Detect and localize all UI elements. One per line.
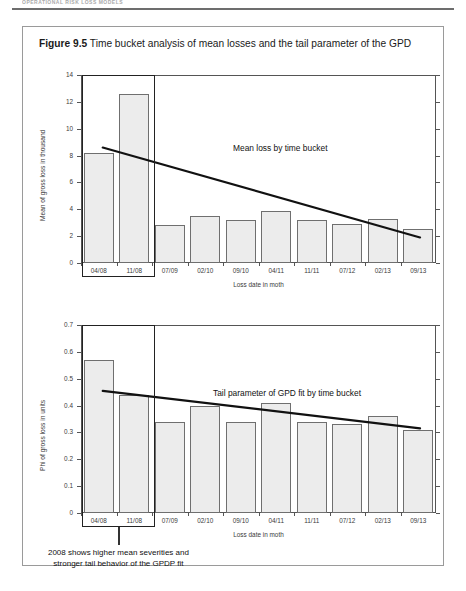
- x-axis-category-label: 07/09: [152, 517, 188, 524]
- mean-loss-chart-right-tick-mark: [436, 263, 440, 264]
- tail-parameter-chart-xtick-mark: [365, 513, 366, 516]
- tail-parameter-chart-ytick-label: 0.3: [43, 428, 73, 435]
- x-axis-category-label: 11/11: [294, 517, 330, 524]
- tail-parameter-chart-ytick-label: 0.2: [43, 455, 73, 462]
- tail-parameter-chart-ytick-label: 0: [43, 509, 73, 516]
- callout-text: 2008 shows higher mean severities and st…: [28, 547, 208, 569]
- x-axis-category-label: 09/10: [223, 517, 259, 524]
- mean-loss-chart-right-tick-mark: [436, 129, 440, 130]
- tail-parameter-chart-right-tick-mark: [436, 486, 440, 487]
- x-axis-category-label: 02/10: [188, 267, 224, 274]
- x-axis-category-label: 04/11: [259, 517, 295, 524]
- mean-loss-chart-ytick-label: 10: [43, 125, 73, 132]
- tail-parameter-chart-right-tick-mark: [436, 325, 440, 326]
- mean-loss-chart-right-tick-mark: [436, 182, 440, 183]
- x-axis-category-label: 07/09: [152, 267, 188, 274]
- x-axis-category-label: 04/11: [259, 267, 295, 274]
- x-axis-category-label: 11/11: [294, 267, 330, 274]
- tail-parameter-chart-right-tick-mark: [436, 352, 440, 353]
- mean-loss-chart-ytick-label: 6: [43, 178, 73, 185]
- x-axis-category-label: 09/10: [223, 267, 259, 274]
- x-axis-category-label: 02/13: [365, 517, 401, 524]
- mean-loss-annotation: Mean loss by time bucket: [233, 143, 328, 153]
- figure-page: OPERATIONAL RISK LOSS MODELS Figure 9.5 …: [0, 0, 466, 591]
- highlight-box-2008-top: [82, 75, 155, 277]
- figure-caption-text: Time bucket analysis of mean losses and …: [90, 38, 411, 49]
- tail-parameter-chart-xtick-mark: [188, 513, 189, 516]
- mean-loss-chart-ytick-label: 14: [43, 71, 73, 78]
- callout-stem: [118, 527, 119, 545]
- mean-loss-chart-ytick-label: 4: [43, 205, 73, 212]
- tail-parameter-chart-ytick-label: 0.5: [43, 375, 73, 382]
- tail-parameter-chart-right-tick-mark: [436, 513, 440, 514]
- tail-parameter-chart-right-tick-mark: [436, 459, 440, 460]
- tail-parameter-chart-ytick-label: 0.6: [43, 348, 73, 355]
- tail-parameter-chart-right-tick-mark: [436, 432, 440, 433]
- mean-loss-chart-xtick-mark: [330, 263, 331, 266]
- mean-loss-chart-ytick-label: 12: [43, 98, 73, 105]
- header-rule: [12, 8, 454, 10]
- x-axis-category-label: 02/10: [188, 517, 224, 524]
- mean-loss-chart-right-tick-mark: [436, 236, 440, 237]
- figure-number: Figure 9.5: [39, 38, 87, 49]
- mean-loss-chart-xtick-mark: [188, 263, 189, 266]
- x-axis-category-label: 09/13: [401, 517, 437, 524]
- callout-line-2: stronger tail behavior of the GPDP fit: [28, 558, 208, 569]
- mean-loss-chart-xtick-mark: [365, 263, 366, 266]
- mean-loss-chart-ytick-label: 0: [43, 259, 73, 266]
- mean-loss-chart-xtick-mark: [401, 263, 402, 266]
- highlight-divider-top: [154, 75, 156, 277]
- mean-loss-chart-ytick-label: 2: [43, 232, 73, 239]
- x-axis-category-label: 02/13: [365, 267, 401, 274]
- mean-loss-chart-right-tick-mark: [436, 156, 440, 157]
- mean-loss-chart-xtick-mark: [223, 263, 224, 266]
- tail-parameter-chart-right-tick-mark: [436, 379, 440, 380]
- figure-container: Figure 9.5 Time bucket analysis of mean …: [22, 26, 444, 566]
- tail-parameter-chart-right-tick-mark: [436, 406, 440, 407]
- tail-parameter-chart-xtick-mark: [294, 513, 295, 516]
- mean-loss-x-axis-title: Loss date in moth: [81, 281, 436, 288]
- mean-loss-chart-xtick-mark: [294, 263, 295, 266]
- highlight-box-2008-bottom: [82, 325, 155, 527]
- tail-parameter-chart-xtick-mark: [401, 513, 402, 516]
- x-axis-category-label: 07/12: [330, 517, 366, 524]
- tail-parameter-chart-xtick-mark: [223, 513, 224, 516]
- mean-loss-chart-xtick-mark: [259, 263, 260, 266]
- highlight-divider-bottom: [154, 325, 156, 527]
- tail-parameter-chart-ytick-label: 0.1: [43, 482, 73, 489]
- x-axis-category-label: 09/13: [401, 267, 437, 274]
- figure-caption: Figure 9.5 Time bucket analysis of mean …: [39, 37, 431, 51]
- mean-loss-chart-ytick-label: 8: [43, 152, 73, 159]
- mean-loss-chart-right-tick-mark: [436, 102, 440, 103]
- mean-loss-chart-right-tick-mark: [436, 75, 440, 76]
- callout-line-1: 2008 shows higher mean severities and: [28, 547, 208, 558]
- mean-loss-chart-right-tick-mark: [436, 209, 440, 210]
- tail-parameter-annotation: Tail parameter of GPD fit by time bucket: [213, 388, 361, 398]
- tail-parameter-x-axis-title: Loss date in moth: [81, 531, 436, 538]
- tail-parameter-chart-xtick-mark: [259, 513, 260, 516]
- tail-parameter-chart-xtick-mark: [330, 513, 331, 516]
- running-head: OPERATIONAL RISK LOSS MODELS: [22, 0, 123, 5]
- x-axis-category-label: 07/12: [330, 267, 366, 274]
- tail-parameter-chart-ytick-label: 0.4: [43, 402, 73, 409]
- tail-parameter-chart-ytick-label: 0.7: [43, 321, 73, 328]
